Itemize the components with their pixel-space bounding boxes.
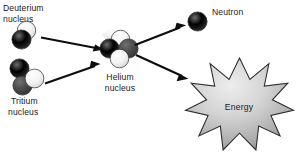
helium-proton-sphere-2 <box>110 49 129 68</box>
helium-label-line1: Helium <box>106 72 133 82</box>
deuterium-label-line1: Deuterium <box>3 3 44 13</box>
arrow-deuterium-to-helium-line <box>41 38 99 49</box>
energy-burst-label: Energy <box>225 102 254 112</box>
arrow-deuterium-to-helium <box>41 38 104 52</box>
neutron-particle: Neutron <box>188 7 243 31</box>
helium-label-line2: nucleus <box>105 83 135 93</box>
tritium-label-line1: Tritium <box>11 96 38 106</box>
arrow-helium-to-neutron-line <box>135 28 180 46</box>
fusion-diagram: Deuterium nucleus Tritium nucleus <box>0 0 297 157</box>
deuterium-neutron-sphere <box>12 30 31 49</box>
arrow-tritium-to-helium-line <box>45 66 95 84</box>
tritium-nucleus <box>10 59 44 95</box>
helium-label: Helium nucleus <box>105 72 135 93</box>
fusion-diagram-canvas: Deuterium nucleus Tritium nucleus <box>0 0 297 157</box>
deuterium-label: Deuterium nucleus <box>3 3 44 24</box>
tritium-proton-sphere <box>25 69 44 88</box>
arrow-tritium-to-helium-head <box>90 61 101 68</box>
arrow-helium-to-energy <box>136 55 188 81</box>
arrow-tritium-to-helium <box>45 61 101 84</box>
energy-burst: Energy <box>186 58 294 150</box>
neutron-label: Neutron <box>212 7 243 17</box>
neutron-sphere <box>188 12 207 31</box>
tritium-label-line2: nucleus <box>8 107 38 117</box>
deuterium-nucleus <box>12 21 36 49</box>
tritium-label: Tritium nucleus <box>8 96 38 117</box>
arrow-helium-to-neutron <box>135 23 186 45</box>
arrow-helium-to-neutron-head <box>175 23 187 30</box>
arrow-helium-to-energy-line <box>136 55 182 76</box>
